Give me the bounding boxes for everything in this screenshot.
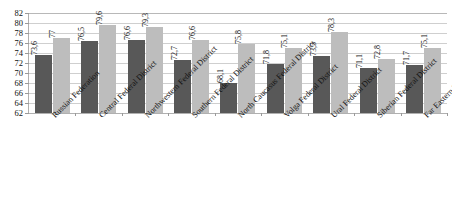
x-axis-category-label: Volga Federal District	[283, 114, 289, 120]
bar-value-label: 78,3	[328, 18, 336, 32]
x-axis-category-label: Russian Federation	[51, 114, 57, 120]
bar-value-label: 73,6	[31, 41, 39, 55]
y-axis-tick-label: 62	[15, 109, 24, 118]
y-axis-tick-label: 68	[15, 79, 24, 88]
y-axis-tick-label: 70	[15, 69, 24, 78]
bar-groups: 73,67776,579,676,679,372,776,668,175,871…	[29, 13, 447, 113]
bar-value-label: 76,6	[189, 26, 197, 40]
bar-value-label: 75,1	[421, 34, 429, 48]
bar-value-label: 72,8	[374, 45, 382, 59]
bar-value-label: 76,5	[78, 27, 86, 41]
bar-value-label: 75,8	[235, 30, 243, 44]
x-axis-category-label: Ural Federal District	[330, 114, 336, 120]
y-axis-tick-label: 74	[15, 49, 24, 58]
bar-value-label: 79,6	[96, 11, 104, 25]
y-axis-tick-label: 72	[15, 59, 24, 68]
plot-area: 73,67776,579,676,679,372,776,668,175,871…	[28, 13, 447, 114]
y-axis-tick-label: 78	[15, 29, 24, 38]
x-axis-category-label: Central Federal District	[98, 114, 104, 120]
x-axis-category-label: Far Eastern Federal District	[423, 114, 429, 120]
x-axis-category-label: Northwestern Federal District	[144, 114, 150, 120]
bar-value-label: 79,3	[142, 13, 150, 27]
bar-value-label: 71,1	[356, 54, 364, 68]
bar-value-label: 71,8	[263, 50, 271, 64]
bar-value-label: 72,7	[171, 46, 179, 60]
y-axis: 6264666870727476788082	[0, 13, 26, 113]
y-axis-tick-label: 80	[15, 19, 24, 28]
y-axis-tick-label: 76	[15, 39, 24, 48]
x-axis-tickmark	[447, 113, 448, 116]
y-axis-tick-label: 66	[15, 89, 24, 98]
x-axis-category-label: Siberian Federal District	[376, 114, 382, 120]
bar-value-label: 77	[49, 30, 57, 38]
bar-value-label: 76,6	[124, 26, 132, 40]
bar-chart: 6264666870727476788082 73,67776,579,676,…	[0, 0, 452, 208]
x-axis-category-label: North Caucasus Federal District	[237, 114, 243, 120]
y-axis-tick-label: 82	[15, 9, 24, 18]
x-axis-category-labels: Russian FederationCentral Federal Distri…	[28, 114, 446, 208]
bar-value-label: 75,1	[281, 34, 289, 48]
x-axis-category-label: Southern Federal District	[191, 114, 197, 120]
bar-value-label: 71,7	[403, 51, 411, 65]
bar: 73,6	[35, 55, 52, 113]
y-axis-tick-label: 64	[15, 99, 24, 108]
